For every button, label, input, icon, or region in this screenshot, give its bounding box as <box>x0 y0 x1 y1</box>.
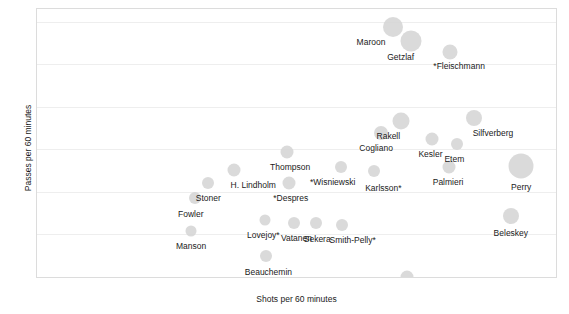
data-point-bubble[interactable] <box>260 214 271 225</box>
data-point-bubble[interactable] <box>282 176 295 189</box>
data-point-label: Stoner <box>196 193 221 203</box>
data-point-label: Sekera <box>304 234 331 244</box>
data-point-bubble[interactable] <box>503 208 519 224</box>
y-tick-mark <box>36 277 37 278</box>
data-point-bubble[interactable] <box>393 113 410 130</box>
data-point-bubble[interactable] <box>202 177 214 189</box>
x-tick-mark <box>193 277 194 278</box>
y-axis-label: Passes per 60 minutes <box>23 68 33 228</box>
data-point-label: *Wisniewski <box>310 177 355 187</box>
x-tick-mark <box>556 277 557 278</box>
y-tick-mark <box>36 22 37 23</box>
y-tick-mark <box>36 234 37 235</box>
plot-area: 024681012 012345678910 MaroonGetzlaf*Fle… <box>36 8 557 278</box>
data-point-label: Maroon <box>357 37 386 47</box>
data-point-label: Lovejoy* <box>247 230 280 240</box>
data-point-bubble[interactable] <box>466 110 482 126</box>
data-point-label: H. Lindholm <box>231 180 276 190</box>
scatter-chart: Passes per 60 minutes 024681012 01234567… <box>0 0 569 314</box>
x-tick-mark <box>400 277 401 278</box>
data-point-label: Thompson <box>270 162 310 172</box>
x-tick-mark <box>348 277 349 278</box>
data-point-label: *Despres <box>273 193 308 203</box>
data-point-bubble[interactable] <box>426 132 439 145</box>
data-point-label: Beleskey <box>494 228 529 238</box>
data-point-bubble[interactable] <box>228 163 241 176</box>
data-point-label: Manson <box>176 241 206 251</box>
data-point-label: Etem <box>444 154 464 164</box>
data-point-label: Beauchemin <box>245 267 292 277</box>
x-tick-mark <box>37 277 38 278</box>
data-point-bubble[interactable] <box>281 145 294 158</box>
x-tick-mark <box>504 277 505 278</box>
data-point-bubble[interactable] <box>400 270 413 278</box>
y-tick-mark <box>36 64 37 65</box>
data-point-bubble[interactable] <box>400 30 421 51</box>
gridline <box>37 22 556 23</box>
data-point-bubble[interactable] <box>336 219 348 231</box>
data-point-bubble[interactable] <box>335 161 347 173</box>
data-point-label: Smith-Pelly* <box>329 235 375 245</box>
y-tick-mark <box>36 149 37 150</box>
data-point-bubble[interactable] <box>310 217 322 229</box>
data-point-bubble[interactable] <box>260 250 272 262</box>
data-point-label: Perry <box>511 182 531 192</box>
x-tick-mark <box>452 277 453 278</box>
x-tick-mark <box>89 277 90 278</box>
data-point-bubble[interactable] <box>451 138 463 150</box>
x-tick-mark <box>245 277 246 278</box>
data-point-label: Fowler <box>178 209 204 219</box>
zero-line <box>37 277 556 278</box>
gridline <box>37 107 556 108</box>
data-point-bubble[interactable] <box>186 225 197 236</box>
y-tick-mark <box>36 107 37 108</box>
data-point-bubble[interactable] <box>443 44 458 59</box>
data-point-label: Palmieri <box>433 177 464 187</box>
data-point-bubble[interactable] <box>509 153 534 178</box>
data-point-label: Getzlaf <box>387 52 414 62</box>
x-tick-mark <box>141 277 142 278</box>
gridline <box>37 149 556 150</box>
data-point-bubble[interactable] <box>383 17 403 37</box>
data-point-bubble[interactable] <box>368 165 380 177</box>
data-point-bubble[interactable] <box>288 217 300 229</box>
data-point-label: Karlsson* <box>365 183 401 193</box>
data-point-label: Silfverberg <box>473 128 514 138</box>
data-point-label: *Fleischmann <box>433 61 485 71</box>
data-point-label: Kesler <box>418 149 442 159</box>
x-axis-label: Shots per 60 minutes <box>36 294 557 304</box>
data-point-label: Rakell <box>377 131 401 141</box>
data-point-label: Cogliano <box>359 143 393 153</box>
y-tick-mark <box>36 192 37 193</box>
x-tick-mark <box>297 277 298 278</box>
